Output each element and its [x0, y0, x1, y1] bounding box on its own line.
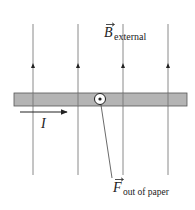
magnetic-force-diagram: I B external F out of paper — [0, 0, 195, 210]
field-arrow-icons — [31, 63, 170, 68]
force-label: F out of paper — [112, 178, 170, 197]
svg-text:external: external — [114, 31, 146, 42]
up-arrow-icon — [76, 63, 80, 68]
svg-text:B: B — [104, 25, 113, 40]
force-out-of-paper-icon — [95, 94, 106, 105]
svg-text:out of paper: out of paper — [123, 187, 170, 197]
current-label: I — [40, 116, 47, 131]
up-arrow-icon — [31, 63, 35, 68]
up-arrow-icon — [166, 63, 170, 68]
svg-text:F: F — [112, 180, 122, 195]
field-label: B external — [104, 23, 146, 42]
force-leader-line — [101, 105, 112, 178]
up-arrow-icon — [121, 63, 125, 68]
